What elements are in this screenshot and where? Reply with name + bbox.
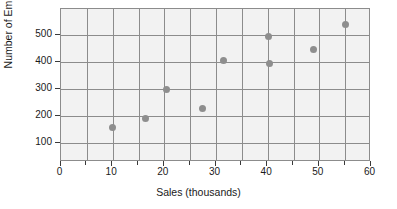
data-point bbox=[199, 105, 206, 112]
data-point bbox=[220, 57, 227, 64]
gridline-vertical bbox=[113, 9, 114, 160]
gridline-vertical bbox=[294, 9, 295, 160]
y-axis-tick-label: 400 bbox=[12, 55, 52, 67]
y-axis-tick bbox=[55, 88, 60, 89]
y-axis-title: Number of Employees bbox=[2, 0, 18, 93]
gridline-vertical bbox=[139, 9, 140, 160]
x-axis-title: Sales (thousands) bbox=[0, 186, 397, 198]
gridline-horizontal bbox=[61, 89, 369, 90]
y-axis-tick-label: 100 bbox=[12, 136, 52, 148]
data-point bbox=[265, 33, 272, 40]
x-axis-minor-tick bbox=[344, 161, 345, 165]
scatter-plot-figure: Sales (thousands) Number of Employees 01… bbox=[0, 0, 397, 209]
gridline-vertical bbox=[345, 9, 346, 160]
gridline-vertical bbox=[87, 9, 88, 160]
x-axis-minor-tick bbox=[292, 161, 293, 165]
y-axis-tick bbox=[55, 61, 60, 62]
data-point bbox=[142, 115, 149, 122]
data-point bbox=[266, 60, 273, 67]
x-axis-tick-label: 60 bbox=[350, 166, 390, 178]
gridline-vertical bbox=[319, 9, 320, 160]
gridline-vertical bbox=[164, 9, 165, 160]
x-axis-minor-tick bbox=[85, 161, 86, 165]
x-axis-tick-label: 10 bbox=[91, 166, 131, 178]
gridline-vertical bbox=[216, 9, 217, 160]
gridline-vertical bbox=[268, 9, 269, 160]
data-point bbox=[109, 124, 116, 131]
x-axis-minor-tick bbox=[240, 161, 241, 165]
gridline-horizontal bbox=[61, 143, 369, 144]
y-axis-tick bbox=[55, 142, 60, 143]
x-axis-tick-label: 20 bbox=[143, 166, 183, 178]
x-axis-minor-tick bbox=[137, 161, 138, 165]
data-point bbox=[342, 21, 349, 28]
gridline-vertical bbox=[190, 9, 191, 160]
data-point bbox=[163, 86, 170, 93]
gridline-horizontal bbox=[61, 35, 369, 36]
x-axis-tick-label: 50 bbox=[298, 166, 338, 178]
y-axis-tick bbox=[55, 34, 60, 35]
gridline-horizontal bbox=[61, 62, 369, 63]
gridline-horizontal bbox=[61, 116, 369, 117]
x-axis-tick-label: 40 bbox=[246, 166, 286, 178]
y-axis-tick-label: 200 bbox=[12, 109, 52, 121]
y-axis-tick-label: 500 bbox=[12, 28, 52, 40]
x-axis-tick-label: 30 bbox=[195, 166, 235, 178]
y-axis-tick-label: 300 bbox=[12, 82, 52, 94]
x-axis-minor-tick bbox=[189, 161, 190, 165]
gridline-vertical bbox=[242, 9, 243, 160]
x-axis-tick-label: 0 bbox=[40, 166, 80, 178]
data-point bbox=[310, 46, 317, 53]
y-axis-tick bbox=[55, 115, 60, 116]
plot-area bbox=[60, 8, 370, 161]
